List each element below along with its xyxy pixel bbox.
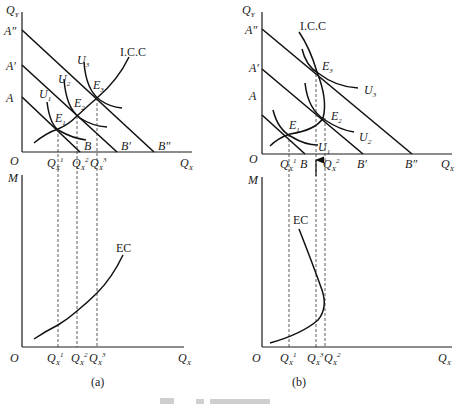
intercept-a-prime: A′ xyxy=(5,59,16,73)
intercept-a-prime: A′ xyxy=(248,61,259,75)
intercept-a: A xyxy=(248,89,257,103)
budget-line-a1b1 xyxy=(22,65,117,152)
budget-line-ab xyxy=(22,97,80,152)
icc-label: I.C.C xyxy=(120,45,146,59)
qx2-label: QX2 xyxy=(323,157,340,173)
x-axis-label: QX xyxy=(178,351,192,367)
u3-label: U3 xyxy=(364,83,377,99)
x-axis-label: QX xyxy=(180,156,194,172)
qx3-label: QX3 xyxy=(89,351,106,367)
panel-b-bottom: M QX O EC QX1 QX3 QX2 xyxy=(247,173,452,367)
intercept-a-double-prime: A″ xyxy=(3,24,17,38)
figure-caption-fragment xyxy=(196,399,204,404)
indifference-curve-u3 xyxy=(84,62,122,108)
e1-label: E1 xyxy=(288,118,300,134)
icc-label: I.C.C xyxy=(300,19,326,33)
qx3-label: QX3 xyxy=(307,351,324,367)
m-axis-label: M xyxy=(7,171,19,185)
intercept-b-double-prime: B″ xyxy=(158,139,171,153)
qx2-label: QX2 xyxy=(72,156,89,172)
e2-label: E2 xyxy=(73,96,85,112)
intercept-a-double-prime: A″ xyxy=(244,23,258,37)
qx2-label: QX2 xyxy=(324,351,341,367)
origin-label: O xyxy=(249,152,258,166)
qx1-label: QX1 xyxy=(47,156,63,172)
intercept-b: B xyxy=(300,157,308,171)
u2-label: U2 xyxy=(359,130,372,146)
budget-line-ab xyxy=(262,115,305,154)
budget-line-a1b1 xyxy=(262,69,363,154)
u3-label: U3 xyxy=(77,53,90,69)
figure-caption-fragment xyxy=(160,398,174,404)
panel-a-bottom: M QX O EC QX1 QX2 QX3 xyxy=(7,171,192,367)
intercept-b: B xyxy=(84,139,92,153)
x-axis-label: QX xyxy=(438,351,452,367)
e3-label: E3 xyxy=(92,78,104,94)
ec-label: EC xyxy=(116,241,131,255)
caption-a: (a) xyxy=(91,375,104,389)
panel-b-top: QY QX O A A′ A″ B B′ B″ U1 U2 U3 I.C.C E… xyxy=(242,3,455,173)
qx1-label: QX1 xyxy=(47,351,63,367)
figure-caption-fragment xyxy=(210,399,270,404)
intercept-b-prime: B′ xyxy=(357,157,367,171)
engel-curve xyxy=(34,255,123,339)
origin-label: O xyxy=(10,154,19,168)
panel-a-top: QY QX O A A′ A″ B B′ B″ U1 U2 U3 I.C.C E… xyxy=(3,3,194,172)
origin-label: O xyxy=(252,351,261,365)
qx2-label: QX2 xyxy=(71,351,88,367)
e1-label: E1 xyxy=(54,111,66,127)
m-axis-label: M xyxy=(247,173,259,187)
qx3-label: QX3 xyxy=(90,156,107,172)
intercept-b-double-prime: B″ xyxy=(405,157,418,171)
origin-label: O xyxy=(10,351,19,365)
y-axis-label: QY xyxy=(6,3,20,19)
u1-label: U1 xyxy=(318,140,330,156)
ec-label: EC xyxy=(293,213,308,227)
y-axis-label: QY xyxy=(242,3,256,19)
caption-b: (b) xyxy=(292,375,306,389)
engel-curve-diagram: QY QX O A A′ A″ B B′ B″ U1 U2 U3 I.C.C E… xyxy=(0,0,457,404)
intercept-a: A xyxy=(5,91,14,105)
intercept-b-prime: B′ xyxy=(121,139,131,153)
e2-label: E2 xyxy=(330,109,342,125)
qx1-label: QX1 xyxy=(280,157,296,173)
u2-label: U2 xyxy=(58,72,71,88)
e3-label: E3 xyxy=(321,59,333,75)
qx1-label: QX1 xyxy=(280,351,296,367)
x-axis-label: QX xyxy=(441,157,455,173)
indifference-curve-u2 xyxy=(305,83,354,132)
